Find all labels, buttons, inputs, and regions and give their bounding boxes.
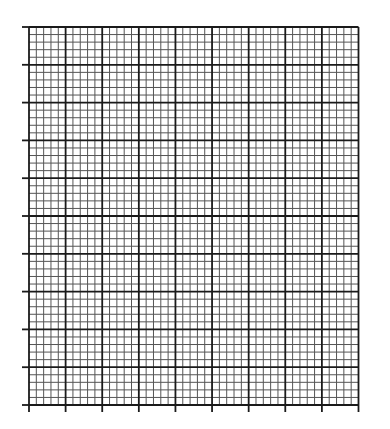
graph-paper — [0, 0, 390, 429]
major-grid — [29, 27, 359, 405]
